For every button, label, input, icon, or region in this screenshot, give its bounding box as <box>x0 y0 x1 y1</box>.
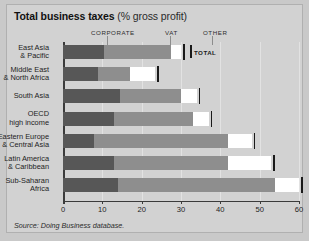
x-axis-tick <box>181 201 182 204</box>
x-axis-tick <box>299 201 300 204</box>
bar-segment-vat <box>114 156 228 170</box>
total-marker <box>273 155 275 171</box>
total-annotation-tick <box>190 45 192 58</box>
title-main: Total business taxes <box>14 10 115 22</box>
x-axis-label: 30 <box>177 205 185 214</box>
gridline <box>299 42 300 201</box>
bar-segment-vat <box>118 178 275 192</box>
bar-segment-other <box>171 45 181 59</box>
category-label: Eastern Europe& Central Asia <box>0 133 49 149</box>
chart-figure: Total business taxes (% gross profit) CO… <box>6 4 303 233</box>
bar-segment-corporate <box>63 45 104 59</box>
page-title: Total business taxes (% gross profit) <box>14 10 187 22</box>
x-axis-tick <box>260 201 261 204</box>
total-marker <box>301 177 303 193</box>
bar-segment-vat <box>114 112 193 126</box>
bar-segment-vat <box>120 89 181 103</box>
category-label-line: & North Africa <box>3 74 49 82</box>
bar-segment-other <box>228 156 271 170</box>
category-label-line: high income <box>9 119 49 127</box>
x-axis-label: 50 <box>255 205 263 214</box>
source-note: Source: Doing Business database. <box>14 221 124 230</box>
plot-area <box>63 42 299 201</box>
category-label: Latin America& Caribbean <box>4 155 49 171</box>
bar-segment-corporate <box>63 178 118 192</box>
gridline <box>220 42 221 201</box>
category-label: OECDhigh income <box>9 110 49 126</box>
category-label: South Asia <box>14 92 49 100</box>
category-label-line: & Central Asia <box>0 141 49 149</box>
x-axis-label: 10 <box>98 205 106 214</box>
total-marker <box>211 111 213 127</box>
legend-label-other: OTHER <box>203 29 227 36</box>
total-marker <box>199 88 201 104</box>
gridline <box>260 42 261 201</box>
bar-segment-corporate <box>63 112 114 126</box>
x-axis-label: 60 <box>295 205 303 214</box>
total-marker <box>157 66 159 82</box>
bar-segment-other <box>193 112 209 126</box>
category-label-line: South Asia <box>14 92 49 100</box>
total-marker <box>183 44 185 60</box>
title-unit: (% gross profit) <box>117 10 187 22</box>
bar-segment-other <box>228 134 252 148</box>
category-label-line: & Caribbean <box>4 163 49 171</box>
legend-label-vat: VAT <box>165 29 178 36</box>
category-label-line: & Pacific <box>18 52 49 60</box>
total-marker <box>254 133 256 149</box>
legend-label-corporate: CORPORATE <box>91 29 135 36</box>
x-axis-label: 40 <box>216 205 224 214</box>
category-label: Middle East& North Africa <box>3 66 49 82</box>
x-axis-tick <box>142 201 143 204</box>
bar-segment-corporate <box>63 156 114 170</box>
bar-segment-vat <box>104 45 171 59</box>
x-axis-label: 20 <box>137 205 145 214</box>
x-axis-tick <box>220 201 221 204</box>
category-label: Sub-SaharanAfrica <box>5 177 49 193</box>
bar-segment-corporate <box>63 134 94 148</box>
bar-segment-other <box>181 89 197 103</box>
category-label: East Asia& Pacific <box>18 44 49 60</box>
bar-segment-corporate <box>63 67 98 81</box>
x-axis-tick <box>102 201 103 204</box>
category-label-line: Africa <box>5 185 49 193</box>
bar-segment-vat <box>98 67 129 81</box>
bar-segment-vat <box>94 134 228 148</box>
total-annotation-label: TOTAL <box>194 49 216 56</box>
x-axis-label: 0 <box>61 205 65 214</box>
bar-segment-other <box>275 178 299 192</box>
bar-segment-corporate <box>63 89 120 103</box>
x-axis-tick <box>63 201 64 204</box>
bar-segment-other <box>130 67 156 81</box>
